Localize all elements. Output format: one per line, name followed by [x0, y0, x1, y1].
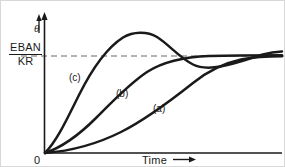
eban-kr-denominator: KR [9, 55, 42, 67]
time-arrowhead-icon [189, 156, 196, 162]
theta-direction-arrowhead-icon [36, 14, 41, 21]
x-axis-title-label: Time [142, 155, 167, 166]
y-axis-arrowhead-icon [41, 12, 47, 20]
curve-label-a: (a) [153, 104, 165, 114]
eban-kr-reference-label: EBAN KR [9, 42, 42, 67]
y-axis-symbol-label: θ [34, 23, 39, 34]
curve-label-b: (b) [116, 89, 128, 99]
eban-kr-numerator: EBAN [9, 42, 42, 55]
plot-canvas [1, 1, 285, 167]
origin-label: 0 [34, 155, 40, 166]
response-curves-figure: θ EBAN KR 0 Time (c) (b) (a) [0, 0, 285, 167]
curve-label-c: (c) [69, 73, 81, 83]
curve-c [45, 33, 282, 153]
